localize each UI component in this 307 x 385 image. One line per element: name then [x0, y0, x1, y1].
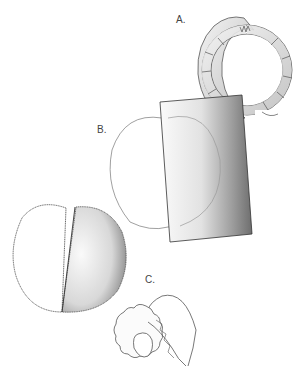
panel-b-cylinder: [110, 95, 252, 242]
label-c: C.: [145, 274, 155, 285]
label-a: A.: [176, 14, 185, 25]
figure-canvas: [0, 0, 307, 385]
bilobed-body: [13, 205, 126, 312]
panel-c-organ: [114, 295, 196, 366]
label-b: B.: [97, 124, 106, 135]
